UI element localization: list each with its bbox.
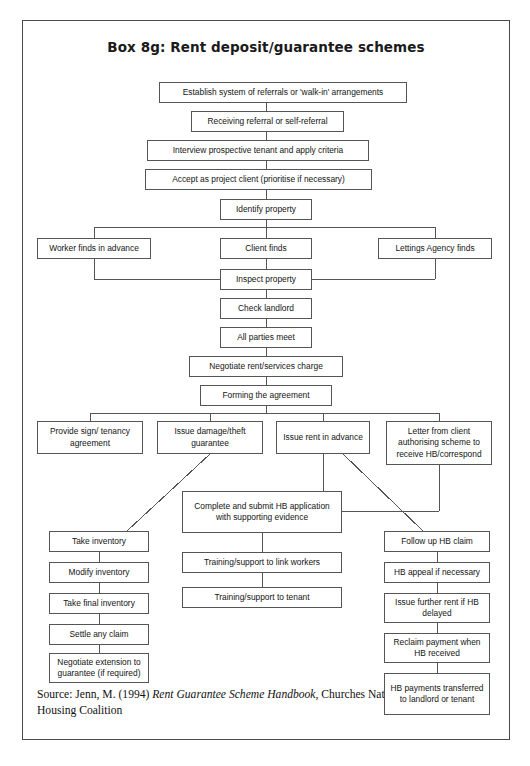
node-settle-any-claim[interactable]: Settle any claim xyxy=(49,624,149,645)
node-issue-further-rent[interactable]: Issue further rent if HB delayed xyxy=(384,593,490,623)
node-take-inventory[interactable]: Take inventory xyxy=(49,531,149,552)
node-modify-inventory[interactable]: Modify inventory xyxy=(49,562,149,583)
node-issue-rent-advance[interactable]: Issue rent in advance xyxy=(276,421,370,454)
node-accept-client[interactable]: Accept as project client (prioritise if … xyxy=(145,169,372,190)
node-check-landlord[interactable]: Check landlord xyxy=(220,298,312,319)
node-training-tenant[interactable]: Training/support to tenant xyxy=(182,587,342,608)
node-training-link-workers[interactable]: Training/support to link workers xyxy=(182,552,342,573)
node-forming-agreement[interactable]: Forming the agreement xyxy=(200,385,332,406)
node-interview-tenant[interactable]: Interview prospective tenant and apply c… xyxy=(147,140,369,161)
node-inspect-property[interactable]: Inspect property xyxy=(220,269,312,290)
node-establish-system[interactable]: Establish system of referrals or 'walk-i… xyxy=(159,82,407,103)
node-complete-hb-application[interactable]: Complete and submit HB application with … xyxy=(182,491,342,533)
node-lettings-agency-finds[interactable]: Lettings Agency finds xyxy=(378,238,492,259)
flowchart-canvas: Establish system of referrals or 'walk-i… xyxy=(23,21,511,741)
node-client-finds[interactable]: Client finds xyxy=(220,238,312,259)
node-letter-from-client[interactable]: Letter from client authorising scheme to… xyxy=(386,421,492,465)
node-all-parties-meet[interactable]: All parties meet xyxy=(220,327,312,348)
box-frame: Box 8g: Rent deposit/guarantee schemes xyxy=(22,20,510,740)
node-receiving-referral[interactable]: Receiving referral or self-referral xyxy=(191,111,344,132)
node-worker-finds[interactable]: Worker finds in advance xyxy=(37,238,151,259)
node-issue-damage-guarantee[interactable]: Issue damage/theft guarantee xyxy=(157,421,263,454)
node-reclaim-payment[interactable]: Reclaim payment when HB received xyxy=(384,633,490,663)
node-negotiate-extension[interactable]: Negotiate extension to guarantee (if req… xyxy=(49,653,149,683)
node-take-final-inventory[interactable]: Take final inventory xyxy=(49,593,149,614)
node-provide-tenancy-agreement[interactable]: Provide sign/ tenancy agreement xyxy=(37,421,143,454)
node-hb-payments-transferred[interactable]: HB payments transferred to landlord or t… xyxy=(384,673,490,715)
node-identify-property[interactable]: Identify property xyxy=(220,199,312,220)
node-hb-appeal[interactable]: HB appeal if necessary xyxy=(384,562,490,583)
node-follow-up-hb-claim[interactable]: Follow up HB claim xyxy=(384,531,490,552)
node-negotiate-rent[interactable]: Negotiate rent/services charge xyxy=(189,356,343,377)
source-citation: Source: Jenn, M. (1994) Rent Guarantee S… xyxy=(37,687,417,720)
source-prefix: Source: Jenn, M. (1994) xyxy=(37,688,152,701)
source-italic-title: Rent Guarantee Scheme Handbook xyxy=(152,688,315,701)
